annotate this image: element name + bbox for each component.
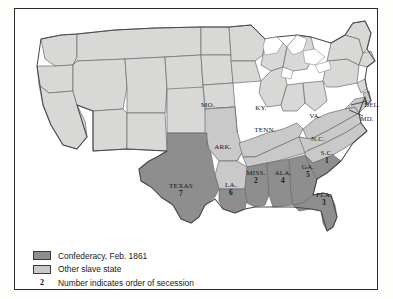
- secession-order-number: 3: [316, 199, 332, 207]
- state-label-ala: ALA.4: [274, 170, 291, 185]
- secession-order-number: 4: [274, 177, 291, 185]
- legend-swatch-confederacy: [33, 251, 51, 260]
- map-figure: MO.KY.VA.TENN.N.C.ARK.S.C.1MISS.2ALA.4GA…: [0, 0, 393, 299]
- state-label-mo: MO.: [201, 102, 215, 109]
- state-name: VA.: [309, 113, 321, 120]
- map-legend: Confederacy, Feb. 1861 Other slave state…: [33, 249, 363, 290]
- secession-order-number: 6: [225, 189, 237, 197]
- legend-label-secession-order: Number indicates order of secession: [58, 278, 194, 288]
- state-label-miss: MISS.2: [246, 170, 265, 185]
- state-label-s-c: S.C.1: [320, 150, 333, 165]
- state-name: MO.: [201, 102, 215, 109]
- state-name: TENN.: [254, 127, 276, 134]
- state-label-del: DEL.: [364, 102, 379, 109]
- state-label-texas: TEXAS7: [169, 183, 193, 198]
- state-label-fla: FLA.3: [316, 192, 332, 207]
- secession-order-number: 2: [246, 177, 265, 185]
- legend-label-other-slave-state: Other slave state: [58, 264, 121, 274]
- state-label-ga: GA.5: [302, 164, 315, 179]
- state-name: N.C.: [311, 136, 325, 143]
- legend-item-other-slave-state: Other slave state: [33, 263, 363, 277]
- state-label-md: MD.: [361, 116, 374, 123]
- legend-key-number: 2: [33, 278, 51, 287]
- state-name: ARK.: [214, 144, 232, 151]
- state-label-la: LA.6: [225, 182, 237, 197]
- legend-item-confederacy: Confederacy, Feb. 1861: [33, 249, 363, 263]
- legend-swatch-other-slave-state: [33, 265, 51, 274]
- secession-order-number: 7: [169, 190, 193, 198]
- state-name: KY.: [255, 105, 267, 112]
- figure-frame: MO.KY.VA.TENN.N.C.ARK.S.C.1MISS.2ALA.4GA…: [14, 8, 378, 290]
- legend-label-confederacy: Confederacy, Feb. 1861: [58, 251, 147, 261]
- state-label-ark: ARK.: [214, 144, 232, 151]
- secession-order-number: 5: [302, 171, 315, 179]
- state-label-n-c: N.C.: [311, 136, 325, 143]
- state-name: MD.: [361, 116, 374, 123]
- secession-order-number: 1: [320, 157, 333, 165]
- state-label-ky: KY.: [255, 105, 267, 112]
- legend-item-secession-order: 2 Number indicates order of secession: [33, 276, 363, 290]
- state-label-va: VA.: [309, 113, 321, 120]
- state-name: DEL.: [364, 102, 379, 109]
- state-label-tenn: TENN.: [254, 127, 276, 134]
